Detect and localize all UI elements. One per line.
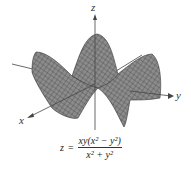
equation-lhs: z (60, 142, 64, 153)
x-arrow-icon (27, 113, 34, 118)
equation-equals: = (68, 142, 74, 153)
equation-fraction: xy(x² − y²) x² + y² (78, 135, 122, 160)
saddle-surface (32, 34, 161, 127)
y-axis-label: y (176, 90, 181, 101)
surface-equation: z = xy(x² − y²) x² + y² (60, 135, 122, 160)
x-axis-label: x (19, 115, 24, 126)
y-arrow-icon (168, 93, 174, 99)
equation-numerator: xy(x² − y²) (78, 135, 122, 148)
z-axis-label: z (91, 2, 95, 13)
equation-denominator: x² + y² (86, 148, 113, 160)
surface-plot (0, 0, 191, 130)
z-arrow-icon (93, 14, 97, 20)
